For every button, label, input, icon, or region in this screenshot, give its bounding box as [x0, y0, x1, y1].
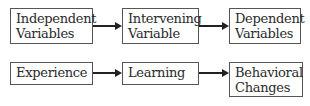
arrow-icon	[93, 72, 120, 74]
box-intervening-variable: Intervening Variable	[122, 8, 199, 44]
arrow-icon	[199, 25, 227, 27]
box-dependent-variables: Dependent Variables	[229, 8, 301, 44]
arrow-icon	[93, 25, 120, 27]
box-behavioral-changes: Behavioral Changes	[229, 62, 303, 97]
box-independent-variables: Independent Variables	[10, 8, 93, 44]
arrow-icon	[199, 72, 227, 74]
box-experience: Experience	[10, 62, 93, 85]
box-learning: Learning	[122, 62, 199, 85]
